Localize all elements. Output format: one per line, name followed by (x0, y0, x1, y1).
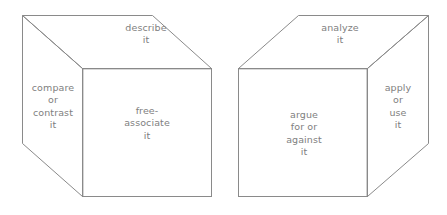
left-cube-front-face (83, 69, 212, 197)
cubes-diagram: describe it compare or contrast it free-… (0, 0, 447, 215)
left-cube-outline (23, 16, 212, 197)
cube-wireframe-graphic (0, 0, 447, 215)
right-cube-top-face (239, 16, 429, 69)
right-cube-front-face (239, 69, 368, 197)
right-cube-right-face (368, 16, 429, 197)
left-cube-top-face (23, 16, 212, 69)
left-cube-left-face (23, 16, 83, 197)
right-cube-outline (239, 16, 429, 197)
